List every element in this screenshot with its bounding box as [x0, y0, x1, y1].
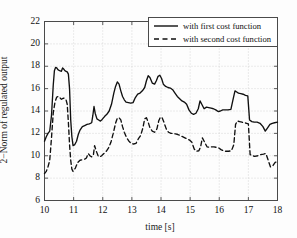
x-tick-16: 16 — [215, 206, 225, 216]
x-tick-12: 12 — [98, 206, 108, 216]
y-axis-title: 2−Norm of regulated output — [0, 57, 9, 164]
chart-figure: 6810121416182022 101112131415161718 time… — [0, 0, 297, 238]
grid-lines — [45, 22, 278, 201]
x-axis-title: time [s] — [145, 222, 174, 232]
x-tick-11: 11 — [69, 206, 78, 216]
legend-line-dashed — [153, 35, 179, 43]
legend-label-second: with second cost function — [183, 34, 271, 44]
legend-line-solid — [153, 22, 179, 30]
y-tick-20: 20 — [20, 39, 40, 49]
y-tick-6: 6 — [20, 196, 40, 206]
x-tick-10: 10 — [40, 206, 50, 216]
legend: with first cost function with second cos… — [148, 17, 278, 47]
y-tick-22: 22 — [20, 17, 40, 27]
legend-item-first-cost-function: with first cost function — [153, 19, 261, 32]
y-tick-10: 10 — [20, 151, 40, 161]
legend-item-second-cost-function: with second cost function — [153, 32, 271, 45]
y-tick-8: 8 — [20, 173, 40, 183]
y-tick-16: 16 — [20, 84, 40, 94]
legend-label-first: with first cost function — [183, 21, 261, 31]
y-tick-14: 14 — [20, 106, 40, 116]
x-tick-17: 17 — [244, 206, 254, 216]
x-tick-15: 15 — [185, 206, 195, 216]
series-line-2 — [45, 96, 278, 173]
y-tick-18: 18 — [20, 62, 40, 72]
y-tick-12: 12 — [20, 129, 40, 139]
x-tick-18: 18 — [273, 206, 283, 216]
x-tick-13: 13 — [127, 206, 137, 216]
x-tick-14: 14 — [156, 206, 166, 216]
